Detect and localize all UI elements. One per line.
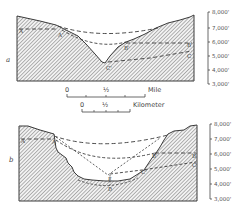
elevation-tick-7000: 7,000' [212,25,229,31]
elevation-tick-8000: 8,000' [214,121,231,127]
elevation-tick-4000: 4,000' [214,181,231,187]
diagram-a-label-C: C [187,53,191,59]
diagram-a-elevation-scale: 8,000' 7,000' 6,000' 5,000' 4,000' 3,000… [208,9,229,87]
kilometer-scale-bar: 0 ½ Kilometer [80,101,165,112]
diagram-a-former-surface-upper [58,26,158,34]
diagram-a-label-C-prime: C' [106,65,112,71]
diagram-b-panel-label: b [9,156,14,164]
diagram-b-label-C: C [192,162,196,168]
diagram-b-former-surface-upper [54,135,168,144]
diagram-b-label-B: B [192,153,196,159]
diagram-a: A A' B' B C' C a 8,000' 7,000' 6,000' 5,… [6,9,229,87]
elevation-tick-3000: 3,000' [214,196,231,202]
elevation-tick-4000: 4,000' [212,67,229,73]
diagram-b-label-D: D [108,186,112,192]
elevation-tick-5000: 5,000' [214,166,231,172]
elevation-tick-8000: 8,000' [212,9,229,15]
mile-scale-unit: Mile [148,86,161,94]
kilometer-scale-half: ½ [102,101,108,109]
diagram-b-former-surface-middle [56,140,155,158]
diagram-a-panel-label: a [6,56,10,64]
diagram-b-label-B-prime: B' [152,153,158,159]
elevation-tick-6000: 6,000' [214,151,231,157]
diagram-a-label-A-prime: A' [57,32,63,38]
diagram-a-label-B: B [187,42,191,48]
diagram-b-label-A-prime: A' [51,139,57,145]
kilometer-scale-zero: 0 [80,101,84,109]
elevation-tick-5000: 5,000' [212,53,229,59]
elevation-tick-7000: 7,000' [214,136,231,142]
diagram-b-label-C-prime: C' [141,169,147,175]
diagram-b-label-E: E [108,176,112,182]
kilometer-scale-unit: Kilometer [133,101,165,109]
valley-cross-section-diagram: A A' B' B C' C a 8,000' 7,000' 6,000' 5,… [0,0,244,205]
diagram-b-elevation-scale: 8,000' 7,000' 6,000' 5,000' 4,000' 3,000… [210,121,231,202]
mile-scale-half: ½ [103,86,109,94]
diagram-b: A A' B' B C' C E D b 8,000' 7,000' 6,000… [9,121,231,202]
elevation-tick-6000: 6,000' [212,39,229,45]
elevation-tick-3000: 3,000' [212,81,229,87]
diagram-a-rock-profile [17,15,194,81]
diagram-a-label-B-prime: B' [124,45,130,51]
mile-scale-zero: 0 [65,86,69,94]
mile-scale-bar: 0 ½ Mile [65,86,161,97]
